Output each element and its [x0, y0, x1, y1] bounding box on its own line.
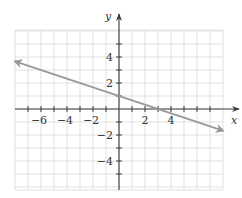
x-axis-label: x: [231, 114, 238, 127]
axes: [15, 14, 239, 190]
x-tick-label: −6: [31, 114, 47, 127]
coordinate-plane: −6−4−22442−2−4 x y: [0, 0, 242, 198]
y-tick-label: 2: [106, 77, 113, 90]
y-tick-label: −2: [97, 129, 113, 142]
x-tick-label: −2: [83, 114, 99, 127]
x-tick-label: 4: [168, 114, 175, 127]
x-tick-label: 2: [142, 114, 149, 127]
y-tick-label: 4: [106, 51, 113, 64]
x-tick-label: −4: [57, 114, 73, 127]
y-axis-label: y: [104, 10, 112, 23]
y-tick-label: −4: [97, 155, 113, 168]
